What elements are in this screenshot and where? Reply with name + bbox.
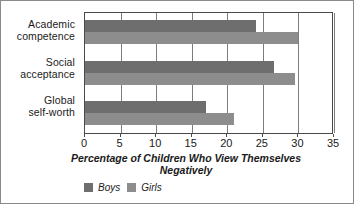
- x-axis-title-line: Negatively: [56, 164, 316, 176]
- x-axis-title: Percentage of Children Who View Themselv…: [56, 152, 316, 176]
- category-label-line: Academic: [1, 19, 75, 31]
- category-label-line: self-worth: [1, 107, 75, 119]
- x-tick-label: 20: [214, 137, 238, 149]
- legend-label-girls: Girls: [141, 182, 162, 193]
- category-label-academic-competence: Academic competence: [1, 19, 75, 42]
- x-tick-label: 5: [108, 137, 132, 149]
- category-label-line: Global: [1, 95, 75, 107]
- x-tick-label: 0: [72, 137, 96, 149]
- legend-swatch-boys: [84, 183, 93, 192]
- plot-area: [84, 12, 333, 134]
- legend: Boys Girls: [84, 182, 284, 193]
- bar-boys-0: [85, 20, 256, 32]
- legend-item-boys: Boys: [84, 182, 120, 193]
- x-axis-title-line: Percentage of Children Who View Themselv…: [56, 152, 316, 164]
- bar-girls-0: [85, 32, 298, 44]
- x-tick-label: 25: [250, 137, 274, 149]
- category-axis-labels: Academic competence Social acceptance Gl…: [1, 13, 79, 133]
- category-label-line: acceptance: [1, 69, 75, 81]
- category-label-social-acceptance: Social acceptance: [1, 57, 75, 80]
- category-label-line: Social: [1, 57, 75, 69]
- chart-figure: Academic competence Social acceptance Gl…: [0, 0, 354, 204]
- gridline: [334, 13, 335, 133]
- x-tick-label: 10: [143, 137, 167, 149]
- legend-label-boys: Boys: [98, 182, 120, 193]
- bar-boys-2: [85, 101, 206, 113]
- bar-boys-1: [85, 61, 274, 73]
- legend-swatch-girls: [127, 183, 136, 192]
- legend-item-girls: Girls: [127, 182, 162, 193]
- x-tick-label: 35: [321, 137, 345, 149]
- gridline: [298, 13, 299, 133]
- bar-girls-1: [85, 73, 295, 85]
- bar-girls-2: [85, 113, 234, 125]
- x-tick-label: 30: [285, 137, 309, 149]
- category-label-global-self-worth: Global self-worth: [1, 95, 75, 118]
- category-label-line: competence: [1, 31, 75, 43]
- x-tick-label: 15: [179, 137, 203, 149]
